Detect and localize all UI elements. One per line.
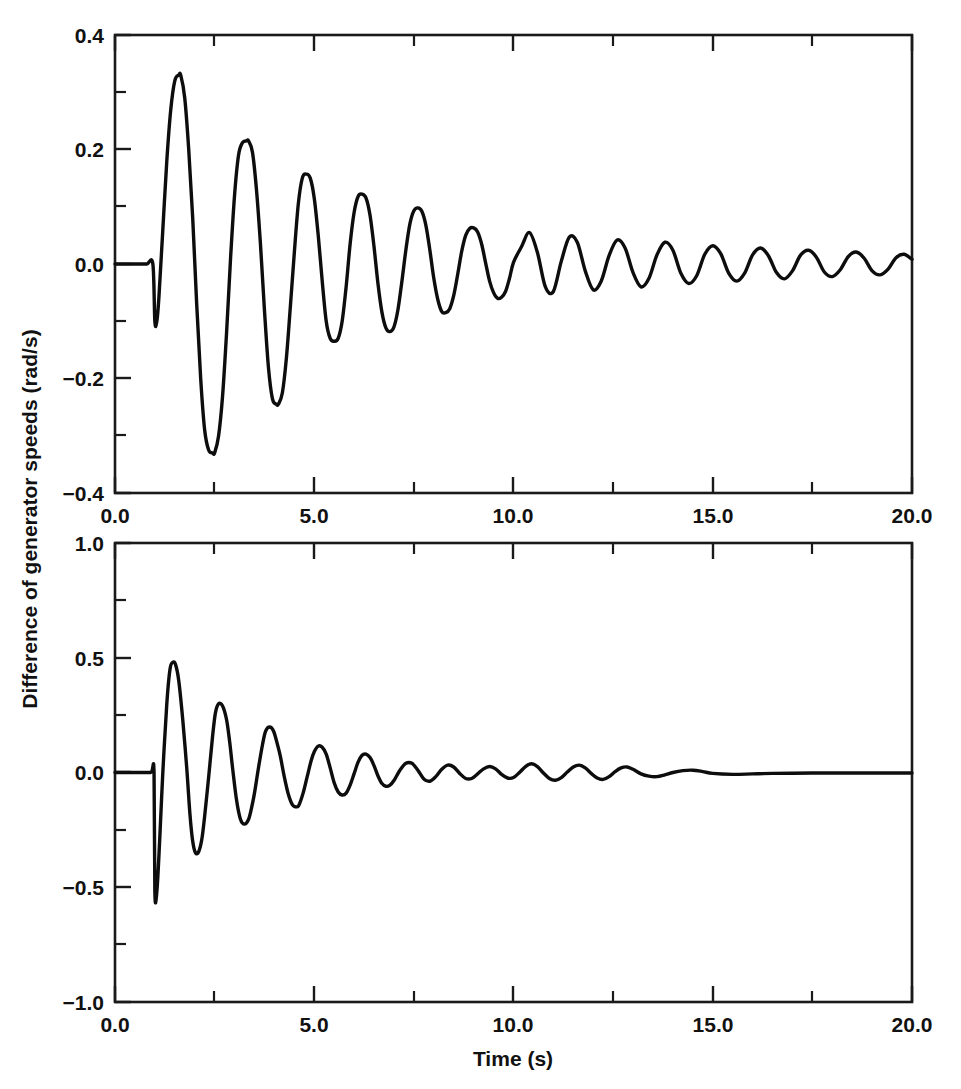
x-axis-title: Time (s) bbox=[473, 1047, 553, 1070]
top-ytick-label: −0.4 bbox=[63, 482, 105, 505]
dual-panel-line-chart: Difference of generator speeds (rad/s) bbox=[0, 0, 961, 1089]
top-panel-x-tick-labels: 0.0 5.0 10.0 15.0 20.0 bbox=[100, 504, 932, 527]
top-ytick-label: 0.0 bbox=[75, 253, 104, 276]
bottom-ytick-label: −0.5 bbox=[63, 876, 105, 899]
top-xtick-label: 20.0 bbox=[892, 504, 933, 527]
bottom-ytick-label: 1.0 bbox=[75, 532, 104, 555]
bottom-xtick-label: 0.0 bbox=[100, 1013, 129, 1036]
bottom-xtick-label: 15.0 bbox=[693, 1013, 734, 1036]
top-ytick-label: 0.2 bbox=[75, 138, 104, 161]
bottom-panel: 1.0 0.5 0.0 −0.5 −1.0 0.0 5.0 10.0 15.0 … bbox=[63, 532, 933, 1070]
bottom-ytick-label: 0.5 bbox=[75, 647, 105, 670]
top-ytick-label: −0.2 bbox=[63, 367, 104, 390]
bottom-ytick-label: 0.0 bbox=[75, 761, 104, 784]
bottom-xtick-label: 5.0 bbox=[299, 1013, 328, 1036]
figure-container: Difference of generator speeds (rad/s) bbox=[0, 0, 961, 1089]
bottom-xtick-label: 10.0 bbox=[493, 1013, 534, 1036]
top-xtick-label: 15.0 bbox=[693, 504, 734, 527]
top-panel-y-tick-labels: 0.4 0.2 0.0 −0.2 −0.4 bbox=[63, 24, 105, 505]
bottom-xtick-label: 20.0 bbox=[892, 1013, 933, 1036]
top-xtick-label: 0.0 bbox=[100, 504, 129, 527]
top-ytick-label: 0.4 bbox=[75, 24, 105, 47]
top-panel: 0.4 0.2 0.0 −0.2 −0.4 0.0 5.0 10.0 15.0 … bbox=[63, 24, 933, 527]
bottom-ytick-label: −1.0 bbox=[63, 991, 104, 1014]
bottom-panel-data-curve bbox=[115, 662, 912, 903]
bottom-panel-y-tick-labels: 1.0 0.5 0.0 −0.5 −1.0 bbox=[63, 532, 105, 1014]
top-panel-data-curve bbox=[115, 73, 912, 454]
bottom-panel-x-tick-labels: 0.0 5.0 10.0 15.0 20.0 bbox=[100, 1013, 932, 1036]
top-xtick-label: 10.0 bbox=[493, 504, 534, 527]
shared-y-axis-title: Difference of generator speeds (rad/s) bbox=[18, 329, 41, 708]
top-xtick-label: 5.0 bbox=[299, 504, 328, 527]
